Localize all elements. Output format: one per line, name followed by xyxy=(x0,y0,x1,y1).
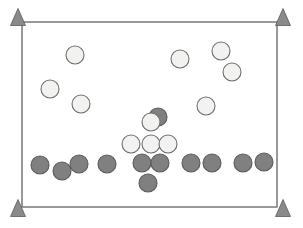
dark-player-10[interactable] xyxy=(203,154,221,172)
cone-icon xyxy=(276,200,291,217)
light-player-9[interactable] xyxy=(122,135,140,153)
light-player-1[interactable] xyxy=(66,46,84,64)
light-player-7[interactable] xyxy=(197,97,215,115)
light-player-11[interactable] xyxy=(159,135,177,153)
field-diagram-svg xyxy=(0,0,303,228)
dark-player-4[interactable] xyxy=(139,174,157,192)
light-player-4[interactable] xyxy=(171,50,189,68)
dark-player-5[interactable] xyxy=(31,156,49,174)
cone-icon xyxy=(11,9,26,26)
dark-player-7[interactable] xyxy=(70,155,88,173)
dark-player-11[interactable] xyxy=(234,154,252,172)
cone-bottom-right xyxy=(276,200,291,217)
dark-player-12[interactable] xyxy=(255,153,273,171)
dark-player-3[interactable] xyxy=(151,154,169,172)
cone-top-left xyxy=(11,9,26,26)
light-player-8[interactable] xyxy=(142,113,160,131)
dark-player-6[interactable] xyxy=(53,162,71,180)
light-player-2[interactable] xyxy=(41,80,59,98)
dark-player-8[interactable] xyxy=(98,155,116,173)
field-diagram-canvas xyxy=(0,0,303,228)
dark-player-2[interactable] xyxy=(133,154,151,172)
cone-top-right xyxy=(276,9,291,26)
light-player-3[interactable] xyxy=(72,95,90,113)
cone-icon xyxy=(276,9,291,26)
light-player-6[interactable] xyxy=(223,63,241,81)
light-player-5[interactable] xyxy=(212,42,230,60)
dark-player-9[interactable] xyxy=(182,154,200,172)
light-player-10[interactable] xyxy=(142,135,160,153)
